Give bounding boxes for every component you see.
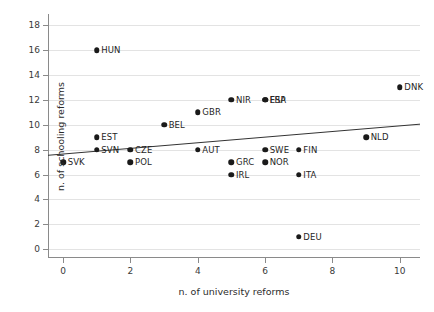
- data-point-nld[interactable]: [363, 134, 369, 140]
- x-tick-4: [198, 258, 199, 263]
- x-axis-title: n. of university reforms: [48, 286, 420, 297]
- data-point-ita[interactable]: [296, 172, 302, 178]
- data-point-gbr[interactable]: [195, 110, 201, 116]
- data-point-label-deu: DEU: [303, 233, 321, 242]
- data-point-label-cze: CZE: [135, 145, 152, 154]
- data-point-bel[interactable]: [161, 122, 167, 128]
- y-axis-title: n. of schooling reforms: [6, 14, 115, 258]
- x-tick-label-2: 2: [128, 267, 134, 276]
- data-point-label-bel: BEL: [169, 121, 185, 130]
- x-tick-0: [63, 258, 64, 263]
- x-tick-8: [332, 258, 333, 263]
- data-point-fra[interactable]: [262, 97, 268, 103]
- data-point-label-dnk: DNK: [404, 83, 423, 92]
- x-tick-label-0: 0: [60, 267, 66, 276]
- data-point-nir[interactable]: [229, 97, 235, 103]
- x-tick-label-6: 6: [262, 267, 268, 276]
- data-point-label-irl: IRL: [236, 170, 249, 179]
- data-point-label-pol: POL: [135, 158, 152, 167]
- data-point-swe[interactable]: [262, 147, 268, 153]
- x-tick-2: [130, 258, 131, 263]
- data-point-irl[interactable]: [229, 172, 235, 178]
- y-axis-title-text: n. of schooling reforms: [55, 81, 66, 190]
- data-point-label-gbr: GBR: [202, 108, 221, 117]
- data-point-fin[interactable]: [296, 147, 302, 153]
- data-point-label-swe: SWE: [270, 145, 289, 154]
- x-tick-label-10: 10: [394, 267, 405, 276]
- data-point-nor[interactable]: [262, 159, 268, 165]
- x-tick-6: [265, 258, 266, 263]
- data-point-label-aut: AUT: [202, 145, 220, 154]
- data-point-label-ita: ITA: [303, 170, 316, 179]
- data-point-label-nld: NLD: [371, 133, 389, 142]
- data-point-cze[interactable]: [128, 147, 134, 153]
- x-tick-10: [400, 258, 401, 263]
- data-point-dnk[interactable]: [397, 85, 403, 91]
- data-point-deu[interactable]: [296, 234, 302, 240]
- data-point-pol[interactable]: [128, 159, 134, 165]
- data-point-label-fra: FRA: [270, 96, 287, 105]
- data-point-grc[interactable]: [229, 159, 235, 165]
- x-tick-label-4: 4: [195, 267, 201, 276]
- data-point-label-nor: NOR: [270, 158, 289, 167]
- data-point-label-fin: FIN: [303, 145, 317, 154]
- scatter-chart-figure: 024681012141618 0246810 SVKHUNESTSVNCZEP…: [0, 0, 434, 312]
- data-point-aut[interactable]: [195, 147, 201, 153]
- data-point-label-nir: NIR: [236, 96, 251, 105]
- x-tick-label-8: 8: [330, 267, 336, 276]
- data-point-label-grc: GRC: [236, 158, 254, 167]
